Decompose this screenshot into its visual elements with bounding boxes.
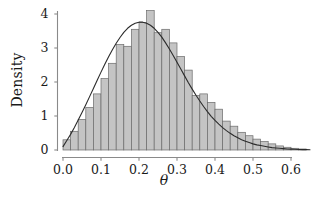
histogram-bar [131,29,139,150]
histogram-bar [215,109,223,150]
histogram-bar [124,46,132,150]
histogram-bars [63,11,306,150]
histogram-bar [139,23,147,151]
x-tick-label: 0.2 [119,162,159,177]
density-histogram-figure: Density θ 012340.00.10.20.30.40.50.6 [0,0,328,201]
x-tick-label: 0.1 [81,162,121,177]
y-tick-label: 3 [33,40,49,55]
histogram-bar [78,119,86,150]
histogram-bar [116,45,124,150]
x-tick-label: 0.0 [43,162,83,177]
x-tick-label: 0.4 [195,162,235,177]
y-tick-label: 2 [33,74,49,89]
histogram-bar [71,131,79,150]
y-tick-label: 1 [33,108,49,123]
histogram-bar [169,43,177,150]
x-tick-label: 0.3 [157,162,197,177]
histogram-bar [223,121,231,150]
y-tick-label: 4 [33,6,49,21]
histogram-bar [86,108,94,151]
histogram-bar [101,79,109,150]
histogram-bar [230,126,238,150]
x-tick-label: 0.5 [233,162,273,177]
histogram-bar [154,33,162,150]
histogram-bar [177,57,185,151]
histogram-bar [147,11,155,150]
histogram-bar [109,63,117,150]
y-tick-label: 0 [33,142,49,157]
histogram-bar [207,102,215,150]
x-tick-label: 0.6 [271,162,311,177]
histogram-bar [192,96,200,150]
histogram-bar [93,94,101,150]
